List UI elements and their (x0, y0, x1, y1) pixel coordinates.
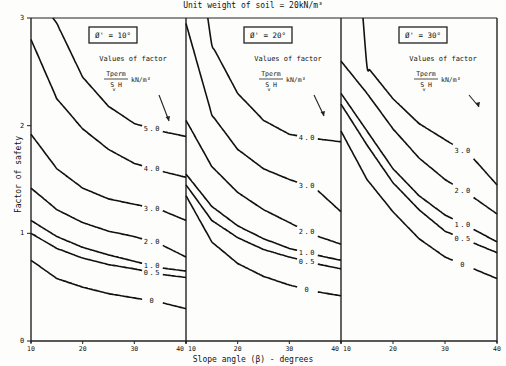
legend-numerator: Tperm (416, 70, 436, 78)
y-tick-label: 3 (20, 14, 24, 22)
curve-0-5 (31, 233, 142, 270)
curve-1-0-tail (474, 229, 497, 242)
y-tick-label: 0 (20, 337, 24, 345)
curve-1-0-tail (318, 255, 341, 260)
x-tick-label: 30 (130, 345, 138, 353)
curve-label: 1.0 (299, 249, 316, 257)
curve-3-0-tail (318, 191, 341, 212)
x-tick-label: 40 (493, 345, 501, 353)
panel-label: Ø' = 30° (405, 31, 441, 40)
curve-5-0-tail (163, 132, 186, 137)
legend-heading: Values of factor (99, 55, 166, 63)
curve-label: 3.0 (299, 182, 316, 190)
curve-0-tail (163, 303, 186, 309)
curve-0-tail (318, 292, 341, 296)
curve-label: 0 (460, 261, 466, 269)
x-tick-label: 20 (234, 345, 242, 353)
curve-2-0-tail (318, 236, 341, 244)
x-tick-label: 20 (79, 345, 87, 353)
curve-label: 4.0 (144, 165, 161, 173)
curve-label: 0 (150, 297, 156, 305)
panel-label: Ø' = 20° (250, 31, 286, 40)
curve-label: 3.0 (144, 205, 161, 213)
legend-subscript: v (267, 86, 270, 92)
curve-label: 0.5 (455, 235, 472, 243)
legend-numerator: Tperm (106, 70, 126, 78)
curve-2-0-tail (163, 245, 186, 257)
curve-0-tail (474, 269, 497, 279)
curve-label: 0 (305, 286, 311, 294)
arrow-head-icon (321, 111, 326, 116)
curve-label: 0.5 (144, 269, 161, 277)
curve-0 (341, 131, 453, 260)
curve-0-5-tail (318, 264, 341, 269)
curve-label: 2.0 (144, 238, 161, 246)
curve-label: 3.0 (455, 147, 472, 155)
curve-3-0 (31, 134, 142, 206)
curve-1-0 (341, 93, 453, 218)
legend-unit: kN/m³ (286, 76, 306, 84)
curve-4-0-tail (163, 172, 186, 178)
curve-2-0-tail (474, 198, 497, 215)
curve-2-0 (341, 61, 453, 184)
curve-0-5-tail (474, 243, 497, 253)
curve-0 (186, 196, 297, 287)
curve-1-0-tail (163, 268, 186, 271)
curve-0 (31, 260, 142, 299)
curve-label: 5.0 (144, 125, 161, 133)
x-tick-label: 40 (176, 345, 184, 353)
legend-heading: Values of factor (409, 55, 476, 63)
curve-4-0-tail (318, 139, 341, 142)
legend-subscript: v (112, 86, 115, 92)
curve-label: 0.5 (299, 258, 316, 266)
x-tick-label: 10 (27, 345, 35, 353)
curve-3-0 (186, 23, 297, 182)
curve-0-5-tail (163, 275, 186, 278)
curve-3-0-tail (163, 211, 186, 221)
legend-subscript: v (422, 86, 425, 92)
legend-numerator: Tperm (261, 70, 281, 78)
curve-1-0 (31, 220, 142, 263)
curve-label: 2.0 (299, 228, 316, 236)
arrow-head-icon (166, 116, 171, 121)
y-tick-label: 2 (20, 122, 24, 130)
curve-label: 2.0 (455, 187, 472, 195)
x-tick-label: 30 (285, 345, 293, 353)
curve-label: 1.0 (455, 221, 472, 229)
x-tick-label: 10 (343, 345, 351, 353)
x-tick-label: 40 (331, 345, 339, 353)
x-tick-label: 10 (188, 345, 196, 353)
x-tick-label: 20 (389, 345, 397, 353)
legend-unit: kN/m³ (441, 76, 461, 84)
x-tick-label: 30 (441, 345, 449, 353)
legend-unit: kN/m³ (131, 76, 151, 84)
curve-3-0-tail (474, 159, 497, 185)
y-tick-label: 1 (20, 229, 24, 237)
curve-2-0 (186, 120, 297, 226)
panel-label: Ø' = 10° (95, 31, 131, 40)
legend-heading: Values of factor (254, 55, 321, 63)
chart-canvas: 0123102030401020304010203040Ø' = 10°Valu… (0, 0, 506, 366)
curve-label: 4.0 (299, 134, 316, 142)
